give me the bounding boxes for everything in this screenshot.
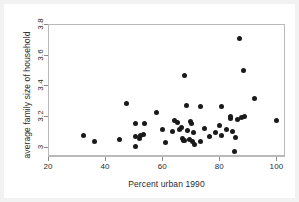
y-tick-label: 3.4 (36, 78, 45, 92)
x-tick (105, 157, 106, 161)
x-tick (276, 157, 277, 161)
x-tick-label: 100 (270, 162, 284, 171)
data-point (252, 96, 257, 101)
data-point (141, 132, 146, 137)
data-point (182, 73, 187, 78)
data-point (237, 36, 242, 41)
x-tick-label: 60 (158, 162, 167, 171)
x-axis-label: Percent urban 1990 (48, 179, 285, 189)
data-points-layer (49, 25, 284, 155)
scatter-plot-figure: 20406080100 33.23.43.63.8 Percent urban … (0, 0, 299, 202)
y-tick (44, 55, 48, 56)
y-tick-label: 3.6 (36, 48, 45, 62)
data-point (170, 129, 175, 134)
x-tick-label: 40 (101, 162, 110, 171)
data-point (81, 133, 86, 138)
y-tick-label: 3.2 (36, 109, 45, 123)
y-tick (44, 147, 48, 148)
y-tick (44, 85, 48, 86)
data-point (92, 139, 97, 144)
data-point (217, 123, 222, 128)
data-point (154, 110, 159, 115)
data-point (163, 140, 168, 145)
data-point (142, 121, 147, 126)
data-point (192, 142, 197, 147)
data-point (175, 120, 180, 125)
data-point (198, 139, 203, 144)
y-tick-label: 3.8 (36, 17, 45, 31)
data-point (185, 128, 190, 133)
data-point (213, 130, 218, 135)
y-tick (44, 116, 48, 117)
data-point (207, 134, 212, 139)
data-point (202, 126, 207, 131)
data-point (133, 144, 138, 149)
data-point (179, 125, 184, 130)
plot-canvas: 20406080100 33.23.43.63.8 Percent urban … (4, 4, 295, 198)
data-point (230, 129, 235, 134)
data-point (241, 68, 246, 73)
data-point (117, 137, 122, 142)
data-point (133, 121, 138, 126)
x-tick (48, 157, 49, 161)
data-point (232, 149, 237, 154)
data-point (274, 118, 279, 123)
data-point (191, 130, 196, 135)
data-point (198, 104, 203, 109)
data-point (124, 101, 129, 106)
x-tick (162, 157, 163, 161)
y-axis-label: average family size of household (22, 20, 32, 170)
x-tick-label: 80 (215, 162, 224, 171)
plot-frame (48, 24, 285, 156)
x-tick (219, 157, 220, 161)
x-axis-line (48, 156, 285, 157)
x-tick-label: 20 (43, 162, 52, 171)
y-tick-label: 3 (36, 140, 45, 154)
data-point (189, 121, 194, 126)
y-tick (44, 24, 48, 25)
data-point (160, 127, 165, 132)
data-point (224, 127, 229, 132)
y-axis-line (48, 24, 49, 157)
data-point (233, 135, 238, 140)
data-point (219, 133, 224, 138)
data-point (242, 114, 247, 119)
data-point (219, 104, 224, 109)
data-point (228, 114, 233, 119)
data-point (184, 103, 189, 108)
